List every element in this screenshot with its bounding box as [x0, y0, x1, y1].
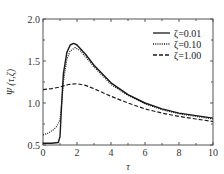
- series-line-2: [43, 48, 213, 135]
- x-tick-label: 2: [75, 147, 80, 158]
- line-chart: 02468100.51.01.52.0 ζ=0.01ζ=0.10ζ=1.00 τ…: [0, 0, 224, 174]
- x-tick-label: 8: [177, 147, 182, 158]
- x-tick-label: 6: [143, 147, 148, 158]
- y-tick-label: 2.0: [28, 14, 41, 25]
- legend-label: ζ=1.00: [174, 50, 201, 62]
- series-line-3: [43, 84, 213, 122]
- legend: ζ=0.01ζ=0.10ζ=1.00: [153, 28, 201, 62]
- x-axis-label: τ: [126, 161, 130, 172]
- x-tick-label: 10: [208, 147, 218, 158]
- x-tick-label: 0: [41, 147, 46, 158]
- y-tick-label: 0.5: [28, 140, 41, 151]
- y-tick-label: 1.0: [28, 98, 41, 109]
- y-axis-label: Ψ (τ,ζ): [5, 68, 17, 95]
- y-tick-label: 1.5: [28, 56, 41, 67]
- x-tick-label: 4: [109, 147, 114, 158]
